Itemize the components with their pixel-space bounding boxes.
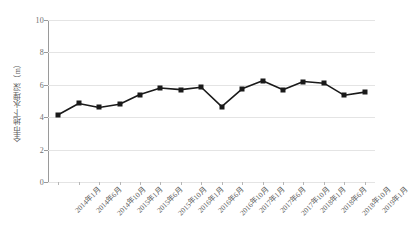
x-tick-mark (365, 182, 366, 185)
gridline (48, 182, 375, 183)
x-tick-mark (222, 182, 223, 185)
plot-area: 0246810 (48, 20, 375, 182)
data-point-marker (117, 102, 122, 107)
gridline (48, 150, 375, 151)
x-tick-mark (242, 182, 243, 185)
gridline (48, 52, 375, 53)
data-point-marker (137, 92, 142, 97)
data-point-marker (301, 79, 306, 84)
x-tick-mark (344, 182, 345, 185)
gridline (48, 117, 375, 118)
data-point-marker (281, 87, 286, 92)
data-point-marker (240, 86, 245, 91)
x-tick-mark (324, 182, 325, 185)
y-tick-mark (44, 150, 48, 151)
data-point-marker (362, 90, 367, 95)
data-point-marker (158, 86, 163, 91)
x-tick-mark (140, 182, 141, 185)
y-tick-mark (44, 52, 48, 53)
y-axis-title-text: 全市地下水埋深（m） (12, 59, 23, 142)
y-tick-mark (44, 117, 48, 118)
data-point-marker (260, 78, 265, 83)
x-tick-mark (263, 182, 264, 185)
data-point-marker (56, 112, 61, 117)
y-tick-mark (44, 182, 48, 183)
x-tick-mark (160, 182, 161, 185)
data-point-marker (97, 105, 102, 110)
y-tick-mark (44, 85, 48, 86)
x-tick-mark (201, 182, 202, 185)
gridline (48, 20, 375, 21)
data-point-marker (76, 101, 81, 106)
y-tick-label: 10 (36, 16, 44, 25)
y-tick-mark (44, 20, 48, 21)
data-point-marker (199, 85, 204, 90)
y-axis-title: 全市地下水埋深（m） (10, 20, 24, 182)
x-tick-mark (283, 182, 284, 185)
x-tick-mark (120, 182, 121, 185)
x-tick-mark (79, 182, 80, 185)
x-tick-mark (58, 182, 59, 185)
data-point-marker (178, 87, 183, 92)
x-tick-mark (303, 182, 304, 185)
x-tick-mark (99, 182, 100, 185)
data-point-marker (219, 104, 224, 109)
x-axis-labels: 2014年1月2014年6月2014年10月2015年1月2015年6月2015… (48, 184, 375, 246)
data-point-marker (342, 93, 347, 98)
x-tick-mark (181, 182, 182, 185)
data-point-marker (321, 81, 326, 86)
